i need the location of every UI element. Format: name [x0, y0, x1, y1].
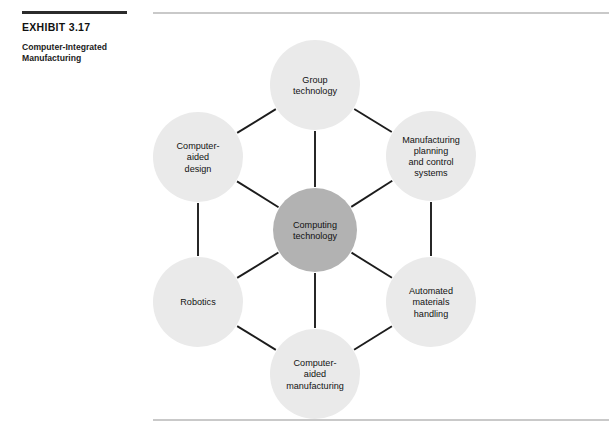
spoke-automated-materials-handling	[352, 253, 392, 278]
node-label-computer-aided-manufacturing: aided	[304, 369, 326, 379]
node-circle-group-technology[interactable]	[270, 40, 360, 130]
exhibit-top-rule	[22, 11, 127, 14]
node-label-computing-technology: Computing	[293, 220, 337, 230]
node-label-automated-materials-handling: handling	[414, 309, 448, 319]
node-label-group-technology: Group	[302, 75, 327, 85]
edge-computer-aided-design--group-technology	[237, 109, 276, 133]
node-label-manufacturing-planning-and-control-systems: systems	[414, 168, 448, 178]
node-computer-aided-design[interactable]: Computer-aideddesign	[153, 112, 243, 202]
node-manufacturing-planning-and-control-systems[interactable]: Manufacturingplanningand controlsystems	[386, 111, 476, 201]
node-automated-materials-handling[interactable]: Automatedmaterialshandling	[386, 257, 476, 347]
node-label-group-technology: technology	[293, 86, 337, 96]
diagram-panel: GrouptechnologyManufacturingplanningand …	[150, 0, 616, 433]
node-label-computer-aided-design: Computer-	[177, 141, 220, 151]
exhibit-caption-block: EXHIBIT 3.17 Computer-Integrated Manufac…	[22, 11, 134, 65]
node-label-computer-aided-design: design	[185, 164, 212, 174]
node-group-technology[interactable]: Grouptechnology	[270, 40, 360, 130]
node-circle-manufacturing-planning-and-control-systems[interactable]	[386, 111, 476, 201]
exhibit-page: EXHIBIT 3.17 Computer-Integrated Manufac…	[0, 0, 616, 433]
node-label-computer-aided-design: aided	[187, 152, 209, 162]
node-computer-aided-manufacturing[interactable]: Computer-aidedmanufacturing	[270, 329, 360, 419]
node-robotics[interactable]: Robotics	[153, 257, 243, 347]
node-circle-computing-technology[interactable]	[273, 188, 357, 272]
node-layer: GrouptechnologyManufacturingplanningand …	[153, 40, 476, 419]
node-label-manufacturing-planning-and-control-systems: Manufacturing	[402, 135, 460, 145]
exhibit-number-label: EXHIBIT 3.17	[22, 21, 134, 33]
node-label-computer-aided-manufacturing: manufacturing	[286, 381, 344, 391]
spoke-computer-aided-design	[237, 181, 278, 207]
node-computing-technology[interactable]: Computingtechnology	[273, 188, 357, 272]
node-label-computer-aided-manufacturing: Computer-	[294, 358, 337, 368]
node-label-manufacturing-planning-and-control-systems: planning	[414, 146, 448, 156]
edge-automated-materials-handling--computer-aided-manufacturing	[354, 326, 392, 349]
node-label-robotics: Robotics	[180, 297, 216, 307]
edge-computer-aided-manufacturing--robotics	[237, 326, 276, 350]
exhibit-title: Computer-Integrated Manufacturing	[22, 42, 134, 65]
edge-group-technology--manufacturing-planning-and-control-systems	[354, 109, 392, 132]
cim-hexagon-diagram: GrouptechnologyManufacturingplanningand …	[150, 0, 616, 433]
node-label-manufacturing-planning-and-control-systems: and control	[409, 157, 454, 167]
node-label-automated-materials-handling: materials	[413, 297, 450, 307]
spoke-robotics	[237, 253, 278, 278]
spoke-manufacturing-planning-and-control-systems	[351, 181, 392, 207]
node-label-computing-technology: technology	[293, 231, 337, 241]
node-label-automated-materials-handling: Automated	[409, 286, 453, 296]
